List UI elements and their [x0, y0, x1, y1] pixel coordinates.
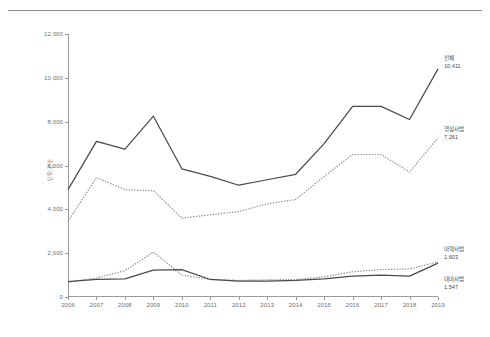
- y-axis-title: 단위:건수: [46, 140, 54, 200]
- x-tick-label: 2006: [61, 302, 75, 308]
- series-line-narcotics: [68, 252, 438, 282]
- y-tick-label: 2,000: [47, 250, 63, 256]
- x-tick-label: 2019: [431, 302, 445, 308]
- y-tick-label: 6,000: [47, 163, 63, 169]
- x-tick-label: 2007: [90, 302, 104, 308]
- series-name-admin: 행정사범: [444, 125, 464, 133]
- series-value-total: 10,411: [444, 62, 461, 70]
- series-end-label-admin: 행정사범 7,261: [444, 125, 464, 141]
- x-tick-label: 2010: [175, 302, 189, 308]
- series-line-total: [68, 69, 438, 190]
- series-line-admin: [68, 138, 438, 222]
- y-tick-label: 10,000: [44, 75, 63, 81]
- y-tick-label: 0: [60, 294, 63, 300]
- series-value-narcotics: 1,603: [444, 253, 464, 261]
- series-lines: [68, 34, 438, 297]
- series-value-admin: 7,261: [444, 133, 464, 141]
- x-tick-label: 2018: [403, 302, 417, 308]
- series-name-narcotics: 마약사범: [444, 245, 464, 253]
- x-tick-label: 2008: [118, 302, 132, 308]
- series-end-label-total: 전체 10,411: [444, 54, 461, 70]
- series-value-cannabis: 1,547: [444, 283, 464, 291]
- x-tick-label: 2016: [346, 302, 360, 308]
- x-tick-label: 2017: [374, 302, 388, 308]
- y-tick-label: 4,000: [47, 206, 63, 212]
- x-tick-label: 2013: [260, 302, 274, 308]
- x-tick-label: 2015: [317, 302, 331, 308]
- x-tick-label: 2011: [204, 302, 217, 308]
- series-name-total: 전체: [444, 54, 461, 62]
- top-divider-rule: [8, 10, 482, 11]
- x-tick-label: 2009: [147, 302, 161, 308]
- y-tick-label: 12,000: [44, 31, 63, 37]
- y-tick-label: 8,000: [47, 119, 63, 125]
- series-name-cannabis: 대마사범: [444, 275, 464, 283]
- plot-area: 단위:건수 0 2,000 4,000 6,000 8,000 10,000 1…: [68, 34, 438, 297]
- x-tick-label: 2012: [232, 302, 246, 308]
- chart-root: 단위:건수 0 2,000 4,000 6,000 8,000 10,000 1…: [0, 0, 490, 337]
- series-line-cannabis: [68, 263, 438, 282]
- series-end-label-cannabis: 대마사범 1,547: [444, 275, 464, 291]
- series-end-label-narcotics: 마약사범 1,603: [444, 245, 464, 261]
- x-tick-label: 2014: [289, 302, 303, 308]
